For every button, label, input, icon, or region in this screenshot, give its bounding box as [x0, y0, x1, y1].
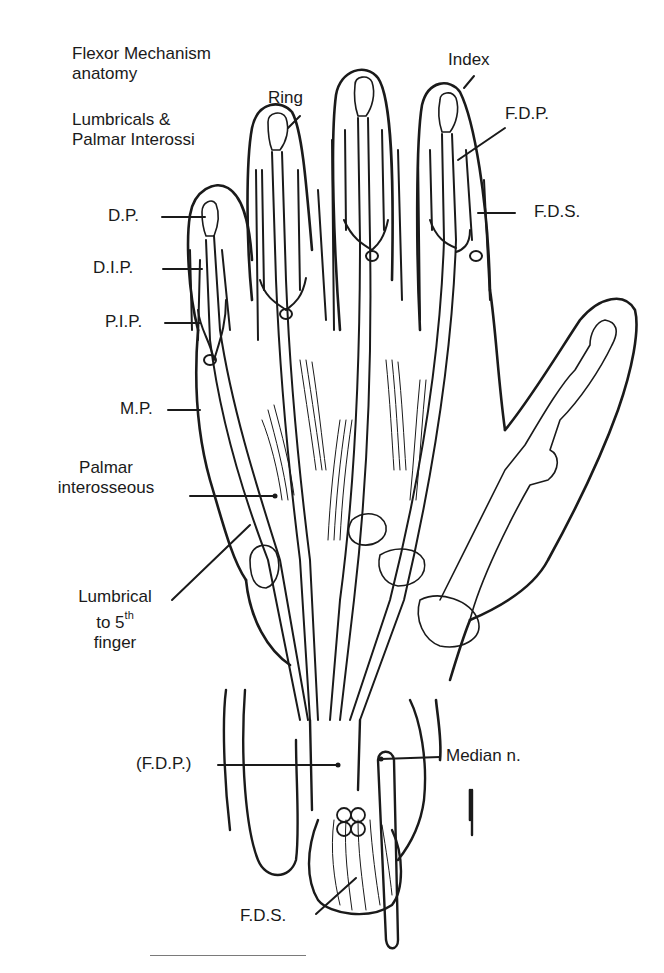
median-nerve-leader	[381, 757, 440, 759]
label-mp: M.P.	[120, 399, 153, 419]
label-lumbrical: Lumbrical to 5th finger	[60, 587, 170, 653]
figure-subtitle-line1: Lumbricals &	[72, 110, 195, 130]
palm-muscles	[262, 360, 426, 540]
fdp-top-leader	[458, 128, 505, 160]
label-fdp-bottom: (F.D.P.)	[136, 754, 191, 774]
label-lumbrical-line1: Lumbrical	[60, 587, 170, 607]
figure-subtitle-line2: Palmar Interossi	[72, 130, 195, 150]
index-leader	[464, 76, 474, 88]
label-pip: P.I.P.	[105, 312, 142, 332]
label-lumbrical-line3: finger	[60, 633, 170, 653]
figure-title: Flexor Mechanism anatomy	[72, 44, 211, 84]
label-dip: D.I.P.	[93, 258, 133, 278]
label-palmar-line1: Palmar	[36, 458, 176, 478]
label-fdp-top: F.D.P.	[505, 104, 549, 124]
figure-title-line2: anatomy	[72, 64, 211, 84]
label-fds-bottom: F.D.S.	[240, 906, 286, 926]
lumbrical-leader	[172, 525, 250, 600]
label-index: Index	[448, 50, 490, 70]
label-median-nerve: Median n.	[446, 746, 521, 766]
label-lumbrical-line2-sup: th	[125, 609, 134, 621]
anatomy-figure: Flexor Mechanism anatomy Lumbricals & Pa…	[0, 0, 664, 973]
label-palmar-interosseous: Palmar interosseous	[36, 458, 176, 498]
label-fds-top: F.D.S.	[534, 202, 580, 222]
figure-title-line1: Flexor Mechanism	[72, 44, 211, 64]
label-palmar-line2: interosseous	[36, 478, 176, 498]
label-dp: D.P.	[108, 206, 139, 226]
label-lumbrical-line2-text: to 5	[96, 613, 124, 632]
label-lumbrical-line2: to 5th	[60, 607, 170, 633]
label-ring: Ring	[268, 88, 303, 108]
footer-rule	[150, 955, 306, 956]
figure-subtitle: Lumbricals & Palmar Interossi	[72, 110, 195, 150]
flexor-tendons	[190, 118, 490, 720]
